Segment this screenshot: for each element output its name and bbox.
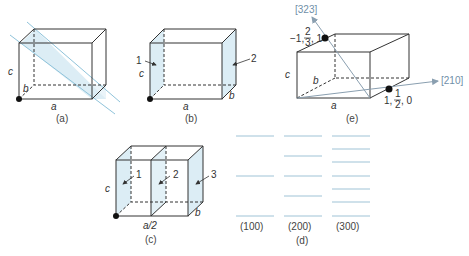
- plane-trace-line: [10, 35, 115, 114]
- edge-label-a: a: [331, 100, 337, 111]
- plane-label-1: 1: [136, 55, 142, 66]
- edge-label-c: c: [8, 66, 13, 77]
- direction-label-210: [210]: [441, 75, 463, 86]
- plane-label-2: 2: [251, 53, 257, 64]
- edge-label-c: c: [139, 68, 144, 79]
- edge-label-b: b: [195, 207, 201, 218]
- edge-label-b: b: [313, 75, 319, 86]
- edge-label-a-half: a/2: [143, 220, 157, 231]
- point2-x: 1,: [384, 95, 392, 106]
- plane-label-2: 2: [173, 169, 179, 180]
- caption-e: (e): [346, 113, 358, 124]
- crystal-planes-diagram: c b a (a) 1 2 c b a (b): [0, 0, 469, 256]
- caption-b: (b): [185, 113, 197, 124]
- plane-label-3: 3: [211, 169, 217, 180]
- edge-label-c: c: [285, 69, 290, 80]
- point1-x: −1,: [290, 33, 304, 44]
- edge-label-a: a: [183, 101, 189, 112]
- origin-point: [113, 213, 119, 219]
- plane-family-label-100: (100): [240, 221, 263, 232]
- point-marker: [322, 35, 329, 42]
- edge-label-b: b: [229, 90, 235, 101]
- point-marker: [386, 86, 393, 93]
- panel-d: [236, 136, 370, 216]
- caption-a: (a): [56, 113, 68, 124]
- point1-z: , 1: [311, 33, 323, 44]
- plane-family-label-200: (200): [288, 221, 311, 232]
- plane-family-label-300: (300): [336, 221, 359, 232]
- panel-c: 1 2 3 c b a/2 (c): [105, 146, 217, 245]
- panel-e: [323] [210] −1, 2 3 , 1 1, 1 2 , 0 c b a…: [285, 4, 463, 124]
- point2-z: , 0: [401, 95, 413, 106]
- panel-a: c b a (a): [8, 22, 120, 124]
- edge-label-b: b: [23, 83, 29, 94]
- edge-label-a: a: [51, 101, 57, 112]
- panel-b: 1 2 c b a (b): [136, 29, 257, 124]
- plane-label-1: 1: [136, 169, 142, 180]
- direction-label-323: [323]: [295, 4, 317, 15]
- origin-point: [16, 96, 22, 102]
- origin-point: [147, 96, 153, 102]
- caption-d: (d): [296, 235, 308, 246]
- caption-c: (c): [145, 234, 157, 245]
- edge-label-c: c: [105, 183, 110, 194]
